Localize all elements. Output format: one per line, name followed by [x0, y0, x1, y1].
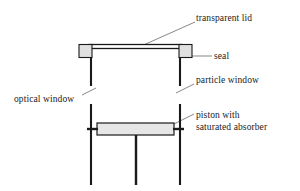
label-piston-line-1: piston with — [196, 110, 240, 120]
transparent-lid-bar — [89, 45, 182, 49]
seal-block-left — [79, 45, 92, 58]
label-optical-window: optical window — [14, 94, 74, 106]
label-transparent-lid: transparent lid — [196, 13, 252, 25]
piston-bar — [97, 123, 174, 135]
label-seal: seal — [214, 51, 229, 63]
seal-block-right — [179, 45, 192, 58]
diagram-canvas: transparent lid seal particle window opt… — [0, 0, 300, 191]
label-piston-with-saturated-absorber: piston with saturated absorber — [196, 110, 267, 133]
leader-line-particle-window — [176, 84, 194, 93]
label-piston-line-2: saturated absorber — [196, 122, 267, 132]
leader-line-transparent-lid — [139, 22, 195, 47]
leader-line-piston — [174, 114, 194, 124]
leader-line-optical-window — [82, 88, 96, 95]
leader-lines — [82, 22, 212, 124]
label-particle-window: particle window — [196, 75, 259, 87]
